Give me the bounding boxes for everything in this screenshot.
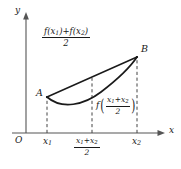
x-tick-x2-sub: 2 (137, 139, 141, 147)
midpoint-denominator: 2 (74, 148, 100, 157)
curve-close-paren: ) (131, 97, 135, 114)
chord-f2: f(x (70, 26, 81, 36)
point-a-label: A (36, 88, 43, 98)
x-tick-label-x2: x2 (132, 137, 141, 147)
curve-midpoint-value-label: f ( x1+x2 2 ) (96, 96, 136, 115)
convex-function-diagram: y x O A B x1 x2 x1+x2 2 f(x1)+f(x2) 2 f … (0, 0, 181, 169)
x-tick-label-x1: x1 (43, 137, 52, 147)
chord-f2-close: ) (85, 26, 88, 36)
y-axis (23, 12, 29, 133)
chord-denominator: 2 (42, 38, 90, 48)
chord-numerator: f(x1)+f(x2) (42, 27, 90, 38)
point-b-marker (136, 56, 138, 58)
point-a-marker (46, 96, 48, 98)
x-tick-label-midpoint: x1+x2 2 (74, 137, 100, 156)
curve-num-right-sub: 2 (125, 98, 128, 104)
curve-den: 2 (106, 107, 130, 116)
curve-function-name: f (96, 101, 99, 110)
x-tick-x1-sub: 1 (48, 139, 52, 147)
y-axis-label: y (15, 6, 20, 15)
point-b-label: B (141, 44, 148, 54)
midpoint-num-right-sub: 2 (94, 139, 97, 145)
midpoint-numerator: x1+x2 (74, 137, 100, 148)
curve-midpoint-fraction: x1+x2 2 (106, 96, 130, 115)
curve-open-paren: ( (101, 97, 105, 114)
x-axis-label: x (169, 126, 174, 135)
chord-f1: f(x (44, 26, 55, 36)
chord-average-label: f(x1)+f(x2) 2 (42, 27, 90, 48)
chord-operator: + (62, 26, 69, 36)
curve-num: x1+x2 (106, 96, 130, 107)
origin-label: O (15, 136, 22, 145)
